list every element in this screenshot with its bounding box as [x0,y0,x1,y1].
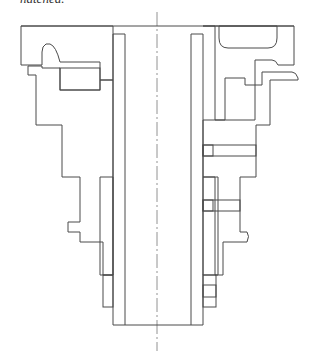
right-screw-upper [203,145,256,156]
right-sleeve [191,34,218,325]
right-top-cap [203,26,294,120]
right-main-body [203,72,298,275]
right-screw-lower [203,200,240,211]
right-bottom-block [203,275,216,307]
left-bottom-block [103,275,113,307]
section-drawing [0,0,317,351]
left-top-cap [21,26,113,80]
